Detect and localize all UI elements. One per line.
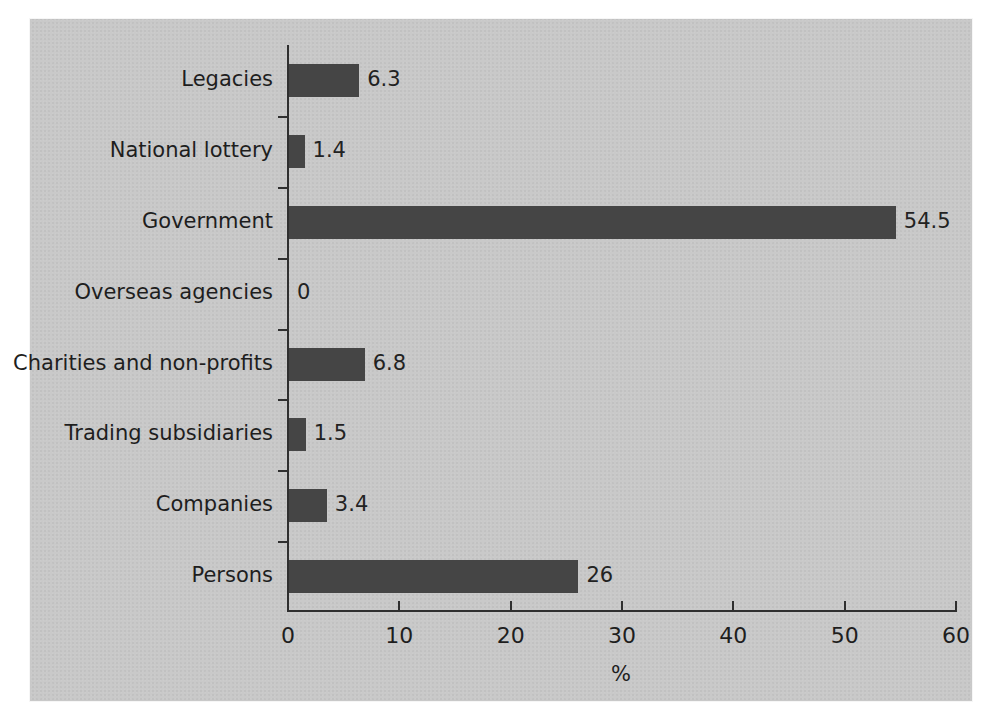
bar (289, 206, 896, 239)
category-label: Government (142, 205, 273, 238)
y-axis-tick (278, 187, 287, 189)
bar (289, 135, 305, 168)
x-axis-tick-label: 0 (281, 623, 295, 648)
chart-panel: Legacies6.3National lottery1.4Government… (30, 19, 972, 701)
x-axis-tick-label: 20 (497, 623, 525, 648)
category-label: National lottery (110, 134, 273, 167)
x-axis-tick-label: 50 (831, 623, 859, 648)
bar-value-label: 6.3 (359, 63, 400, 96)
bar-value-label: 1.5 (306, 417, 347, 450)
category-label: Overseas agencies (74, 276, 273, 309)
bar-row: Charities and non-profits6.8 (287, 329, 955, 400)
bar (289, 64, 359, 97)
bar-value-label: 54.5 (896, 205, 951, 238)
x-axis-tick (955, 601, 957, 611)
bar-row: National lottery1.4 (287, 116, 955, 187)
bar-row: Overseas agencies0 (287, 258, 955, 329)
category-label: Legacies (181, 63, 273, 96)
bar-value-label: 6.8 (365, 347, 406, 380)
y-axis-tick (278, 470, 287, 472)
bar-row: Government54.5 (287, 187, 955, 258)
category-label: Charities and non-profits (13, 347, 273, 380)
category-label: Persons (191, 559, 273, 592)
bar-value-label: 3.4 (327, 488, 368, 521)
x-axis-tick-label: 60 (942, 623, 970, 648)
y-axis-tick (278, 258, 287, 260)
bar (289, 560, 578, 593)
bar-value-label: 26 (578, 559, 613, 592)
bar-row: Companies3.4 (287, 470, 955, 541)
bar-row: Legacies6.3 (287, 45, 955, 116)
x-axis-title: % (611, 662, 631, 686)
x-axis-tick-label: 40 (719, 623, 747, 648)
bar (289, 348, 365, 381)
bar (289, 489, 327, 522)
bar-value-label: 1.4 (305, 134, 346, 167)
bar-row: Trading subsidiaries1.5 (287, 399, 955, 470)
x-axis-tick-label: 10 (385, 623, 413, 648)
bar-value-label: 0 (289, 276, 310, 309)
category-label: Trading subsidiaries (65, 417, 273, 450)
y-axis-tick (278, 116, 287, 118)
category-label: Companies (156, 488, 273, 521)
bar (289, 418, 306, 451)
y-axis-tick (278, 329, 287, 331)
y-axis-tick (278, 399, 287, 401)
y-axis-tick (278, 541, 287, 543)
x-axis-tick-label: 30 (608, 623, 636, 648)
bar-row: Persons26 (287, 541, 955, 612)
plot-area: Legacies6.3National lottery1.4Government… (287, 45, 955, 612)
